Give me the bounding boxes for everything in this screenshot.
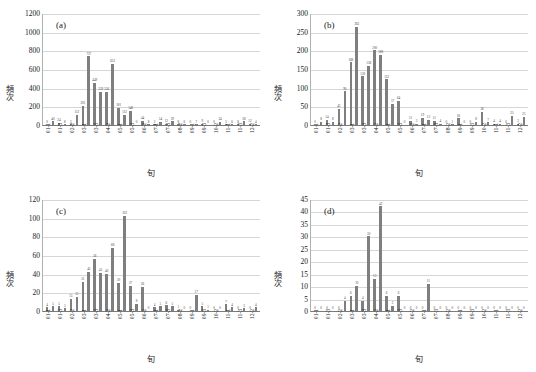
bar-value-label: 10 xyxy=(355,282,358,285)
y-axis-tick-labels: 020040060080010001200 xyxy=(14,14,40,126)
bar-value-label: 7 xyxy=(225,301,227,304)
bar xyxy=(350,62,353,125)
bar-value-label: 6 xyxy=(386,292,388,295)
bar-value-label: 19 xyxy=(421,114,424,117)
bar-value-label: 90 xyxy=(343,88,346,91)
y-axis-tick: 20 xyxy=(301,258,309,266)
bar-value-label: 8 xyxy=(148,121,150,124)
bar-series: 0814843901682631301582001881225764011319… xyxy=(311,14,528,125)
bar xyxy=(87,272,90,311)
y-axis-tick: 10 xyxy=(301,283,309,291)
bar xyxy=(135,304,138,311)
bar xyxy=(64,308,67,311)
y-axis-tick-labels: 051015202530354045 xyxy=(282,200,308,312)
bar xyxy=(123,115,126,125)
bar-value-label: 2 xyxy=(392,302,394,305)
bar-value-label: 31 xyxy=(81,278,84,281)
bar-value-label: 4 xyxy=(440,120,442,123)
bar-value-label: 6 xyxy=(398,292,400,295)
bar-item: 21 xyxy=(521,14,527,125)
x-axis-tick-slot xyxy=(253,127,259,163)
x-axis-tick-labels: 01-101-302-203-103-304-205-105-306-207-1… xyxy=(42,313,260,349)
bar xyxy=(52,121,55,125)
bar xyxy=(141,287,144,311)
bar xyxy=(117,283,120,311)
bar-value-label: 8 xyxy=(475,118,477,121)
bar-value-label: 68 xyxy=(111,244,114,247)
bar-value-label: 8 xyxy=(320,118,322,121)
bar-value-label: 0 xyxy=(136,121,138,124)
bar xyxy=(87,56,90,125)
y-axis-tick: 100 xyxy=(297,85,308,93)
bar xyxy=(105,274,108,311)
bar xyxy=(111,248,114,311)
bar-value-label: 8 xyxy=(332,118,334,121)
bar xyxy=(76,297,79,311)
bar xyxy=(373,279,376,311)
bar-value-label: 5 xyxy=(58,303,60,306)
plot-area: 0814843901682631301582001881225764011319… xyxy=(310,14,528,126)
bar xyxy=(344,301,347,311)
bar-value-label: 4 xyxy=(344,297,346,300)
bar-value-label: 7 xyxy=(487,119,489,122)
bar xyxy=(427,284,430,311)
x-axis-tick-labels: 01-101-302-203-103-304-205-105-306-207-1… xyxy=(310,313,528,349)
bar-value-label: 203 xyxy=(80,102,85,105)
x-axis-title: 旬 xyxy=(42,353,260,364)
bar-value-label: 43 xyxy=(337,105,340,108)
bar-value-label: 26 xyxy=(141,283,144,286)
bar-value-label: 40 xyxy=(51,118,54,121)
bar-value-label: 30 xyxy=(117,279,120,282)
bar-value-label: 24 xyxy=(57,119,60,122)
y-axis-tick: 0 xyxy=(36,308,40,316)
bar-value-label: 42 xyxy=(379,203,382,206)
y-axis-tick: 150 xyxy=(297,66,308,74)
chart-panel-c: 頻次02040608010012045531315314256414068301… xyxy=(0,186,268,372)
bar-value-label: 168 xyxy=(348,59,353,62)
bar-value-label: 57 xyxy=(391,100,394,103)
bar-value-label: 148 xyxy=(128,107,133,110)
chart-panel-a: 頻次02004006008001000120004024831122037374… xyxy=(0,0,268,186)
bar-series: 0000046104301342626000011000000000000000… xyxy=(311,200,528,311)
bar-value-label: 34 xyxy=(159,118,162,121)
bar-value-label: 4 xyxy=(362,297,364,300)
bar-value-label: 0 xyxy=(440,307,442,310)
bar-value-label: 102 xyxy=(122,212,127,215)
bar-value-label: 41 xyxy=(99,269,102,272)
y-axis-tick: 600 xyxy=(29,66,40,74)
y-axis-tick: 800 xyxy=(29,48,40,56)
x-axis-tick-slot xyxy=(253,313,259,349)
y-axis-tick: 120 xyxy=(29,196,40,204)
bar-value-label: 3 xyxy=(243,305,245,308)
plot-area: 4553131531425641406830102278260456510017… xyxy=(42,200,260,312)
y-axis-tick: 100 xyxy=(29,215,40,223)
y-axis-title: 頻次 xyxy=(271,85,282,101)
bar-value-label: 6 xyxy=(183,121,185,124)
bar-value-label: 64 xyxy=(397,97,400,100)
y-axis-tick-labels: 020406080100120 xyxy=(14,200,40,312)
bar-value-label: 0 xyxy=(463,307,465,310)
bar-value-label: 3 xyxy=(416,120,418,123)
bar-value-label: 0 xyxy=(148,307,150,310)
bar-value-label: 122 xyxy=(384,76,389,79)
bar xyxy=(344,91,347,125)
bar-value-label: 3 xyxy=(64,305,66,308)
x-axis-title: 旬 xyxy=(310,353,528,364)
x-axis-tick-labels: 01-101-302-203-103-304-205-105-306-207-1… xyxy=(42,127,260,163)
bar xyxy=(105,92,108,125)
y-axis-tick: 60 xyxy=(33,252,41,260)
bar-value-label: 17 xyxy=(195,291,198,294)
bar-value-label: 652 xyxy=(110,60,115,63)
bar xyxy=(93,83,96,125)
bar xyxy=(361,76,364,125)
y-axis-tick-labels: 050100150200250300 xyxy=(282,14,308,126)
bar-value-label: 8 xyxy=(64,121,66,124)
y-axis-tick: 15 xyxy=(301,271,309,279)
y-axis-tick: 400 xyxy=(29,85,40,93)
y-axis-tick: 35 xyxy=(301,221,309,229)
y-axis-tick: 1000 xyxy=(25,29,40,37)
bar-value-label: 40 xyxy=(105,270,108,273)
bar xyxy=(52,306,55,311)
bar-value-label: 13 xyxy=(373,275,376,278)
bar xyxy=(320,122,323,125)
